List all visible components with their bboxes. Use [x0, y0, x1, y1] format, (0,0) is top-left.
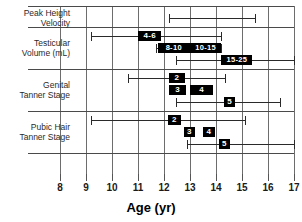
x-tick-label: 15: [232, 182, 252, 193]
puberty-timeline-chart: 4-68-1010-1515-2523452345 Peak HeightVel…: [0, 0, 302, 222]
range-cap: [176, 98, 177, 107]
range-cap: [128, 74, 129, 83]
range-cap: [176, 56, 177, 65]
range-cap: [255, 14, 256, 23]
gridline-vertical: [294, 6, 295, 181]
range-cap: [187, 140, 188, 149]
x-tick-label: 14: [206, 182, 226, 193]
x-tick: [216, 174, 217, 181]
x-tick: [86, 174, 87, 181]
gridline-vertical: [86, 6, 87, 181]
x-tick: [112, 174, 113, 181]
range-cap: [294, 140, 295, 149]
row-group-label: TesticularVolume (mL): [0, 38, 70, 58]
x-tick-label: 10: [102, 182, 122, 193]
gridline-vertical: [216, 6, 217, 181]
x-tick-label: 16: [258, 182, 278, 193]
value-box: 8-10: [158, 43, 191, 53]
group-separator: [28, 69, 294, 70]
x-tick: [164, 174, 165, 181]
value-box: 4: [203, 127, 215, 137]
group-separator: [28, 153, 294, 154]
range-bar: [169, 18, 255, 19]
range-cap: [221, 32, 222, 41]
value-box: 3: [169, 85, 186, 95]
x-tick-label: 12: [154, 182, 174, 193]
row-group-label-line2: Volume (mL): [0, 48, 70, 58]
gridline-vertical: [268, 6, 269, 181]
range-bar: [187, 144, 294, 145]
x-tick: [242, 174, 243, 181]
row-group-label-line2: Tanner Stage: [0, 90, 70, 100]
x-tick: [294, 174, 295, 181]
row-group-label-line1: Testicular: [0, 38, 70, 48]
row-group-label-line1: Genital: [0, 80, 70, 90]
value-box: 2: [168, 115, 181, 125]
gridline-vertical: [164, 6, 165, 181]
gridline-vertical: [112, 6, 113, 181]
range-cap: [221, 44, 222, 53]
range-cap: [245, 116, 246, 125]
row-group-label-line2: Tanner Stage: [0, 132, 70, 142]
value-box: 5: [219, 139, 231, 149]
range-cap: [280, 98, 281, 107]
x-tick: [60, 174, 61, 181]
row-group-label-line1: Peak Height: [0, 8, 70, 18]
x-tick-label: 13: [180, 182, 200, 193]
value-box: 4: [190, 85, 213, 95]
value-box: 10-15: [190, 43, 221, 53]
range-cap: [91, 32, 92, 41]
plot-top-border: [28, 6, 294, 7]
value-box: 4-6: [138, 31, 161, 41]
gridline-vertical: [242, 6, 243, 181]
x-axis-title: Age (yr): [0, 200, 302, 215]
x-tick: [268, 174, 269, 181]
value-box: 5: [224, 97, 236, 107]
row-group-label: Peak HeightVelocity: [0, 8, 70, 28]
x-tick-label: 9: [76, 182, 96, 193]
x-tick: [138, 174, 139, 181]
range-cap: [169, 14, 170, 23]
x-tick-label: 11: [128, 182, 148, 193]
x-tick-label: 8: [50, 182, 70, 193]
x-tick-label: 17: [284, 182, 302, 193]
range-cap: [225, 74, 226, 83]
value-box: 3: [184, 127, 196, 137]
row-group-label-line2: Velocity: [0, 18, 70, 28]
row-group-label: GenitalTanner Stage: [0, 80, 70, 100]
row-group-label-line1: Pubic Hair: [0, 122, 70, 132]
value-box: 2: [169, 73, 185, 83]
plot-area: 4-68-1010-1515-2523452345 Peak HeightVel…: [0, 0, 302, 222]
value-box: 15-25: [221, 55, 252, 65]
range-cap: [294, 56, 295, 65]
x-tick: [190, 174, 191, 181]
row-group-label: Pubic HairTanner Stage: [0, 122, 70, 142]
range-cap: [91, 116, 92, 125]
group-separator: [28, 111, 294, 112]
